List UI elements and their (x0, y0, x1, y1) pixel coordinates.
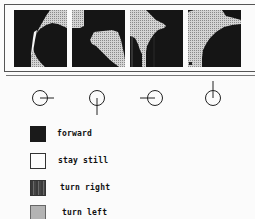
stay-still-swatch (30, 153, 46, 169)
legend-label-turn-right: turn right (60, 183, 110, 192)
stay-still-cell (189, 62, 192, 65)
heading-south-icon (87, 88, 107, 116)
legend-label-stay-still: stay still (58, 156, 108, 165)
turn-left-region-top (72, 10, 84, 28)
turn-left-swatch (30, 205, 46, 219)
policy-panel-north (188, 10, 241, 67)
heading-east-icon (30, 88, 56, 108)
heading-west-icon (138, 88, 166, 108)
forward-swatch (30, 126, 46, 142)
turn-left-stem (142, 52, 146, 67)
policy-panel-south (72, 10, 125, 67)
policy-panel-west (130, 10, 183, 67)
turn-right-swatch (30, 180, 46, 196)
policy-panel-east (14, 10, 67, 67)
legend-label-forward: forward (57, 129, 92, 138)
legend-label-turn-left: turn left (62, 208, 107, 217)
heading-north-icon (203, 80, 223, 108)
